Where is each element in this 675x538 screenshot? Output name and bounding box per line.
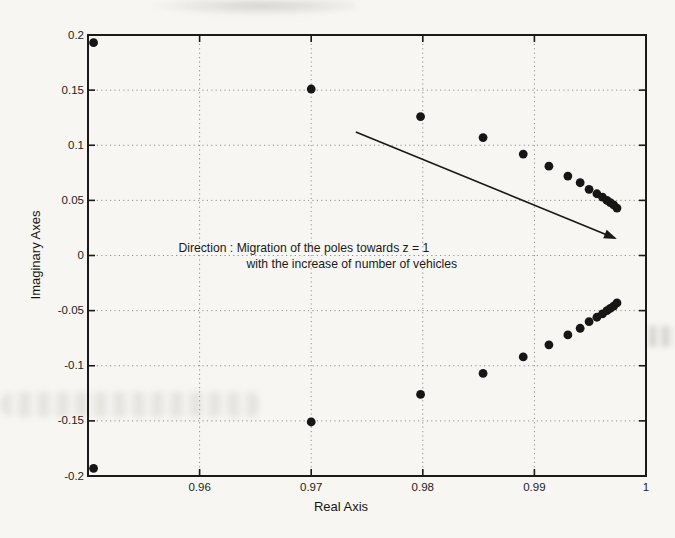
- pole-marker: [576, 324, 585, 333]
- pole-marker: [479, 369, 488, 378]
- pole-marker: [89, 38, 98, 47]
- pole-marker: [563, 330, 572, 339]
- pole-marker: [519, 150, 528, 159]
- pole-marker: [307, 418, 316, 427]
- pole-marker: [576, 178, 585, 187]
- plot-canvas: [0, 0, 675, 538]
- pole-marker: [416, 390, 425, 399]
- y-axis-label: Imaginary Axes: [28, 205, 44, 305]
- pole-marker: [416, 112, 425, 121]
- pole-marker: [519, 353, 528, 362]
- pole-marker: [585, 317, 594, 326]
- pole-marker: [479, 133, 488, 142]
- pole-marker: [613, 204, 622, 213]
- pole-marker: [563, 172, 572, 181]
- x-axis-label: Real Axis: [62, 499, 620, 514]
- pole-marker: [307, 85, 316, 94]
- direction-arrow-head: [603, 230, 617, 239]
- pole-marker: [613, 299, 622, 308]
- pole-marker: [545, 340, 554, 349]
- pole-migration-figure: 0.960.970.980.9910.20.150.10.050-0.05-0.…: [0, 0, 675, 538]
- pole-marker: [89, 464, 98, 473]
- pole-marker: [545, 162, 554, 171]
- direction-arrow-shaft: [356, 132, 608, 235]
- pole-marker: [585, 185, 594, 194]
